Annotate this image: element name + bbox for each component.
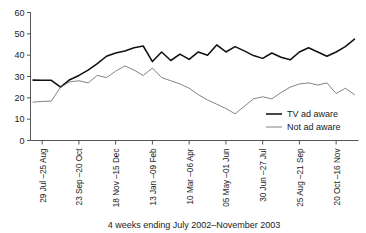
line-chart: 0102030405060 29 Jul –25 Aug23 Sep –20 O…: [0, 0, 366, 233]
x-tick-label: 18 Nov –15 Dec: [112, 149, 121, 208]
legend-label-1: Not ad aware: [287, 122, 341, 132]
y-tick-label: 50: [14, 29, 24, 39]
y-tick-label: 20: [14, 93, 24, 103]
series-line-not-ad-aware: [33, 66, 355, 114]
x-tick-label: 29 Jul –25 Aug: [39, 148, 48, 203]
series-line-tv-ad-aware: [33, 39, 355, 87]
y-tick-marks: [27, 13, 31, 141]
x-tick-label: 25 Aug –21 Sep: [296, 148, 305, 207]
y-tick-label: 60: [14, 8, 24, 18]
x-tick-labels: 29 Jul –25 Aug23 Sep –20 Oct18 Nov –15 D…: [39, 148, 342, 208]
x-tick-label: 23 Sep –20 Oct: [75, 148, 84, 206]
chart-container: 0102030405060 29 Jul –25 Aug23 Sep –20 O…: [0, 0, 366, 233]
y-tick-label: 30: [14, 72, 24, 82]
y-tick-labels: 0102030405060: [14, 8, 24, 146]
x-tick-label: 13 Jan –09 Feb: [149, 148, 158, 205]
y-tick-label: 40: [14, 50, 24, 60]
x-tick-label: 30 Jun –27 Jul: [259, 148, 268, 201]
legend-label-0: TV ad aware: [287, 109, 338, 119]
x-tick-label: 10 Mar –06 Apr: [186, 148, 195, 204]
x-tick-label: 05 May –01 Jun: [222, 148, 231, 207]
data-series-group: [33, 39, 355, 114]
y-tick-label: 10: [14, 114, 24, 124]
x-tick-marks: [42, 141, 336, 145]
x-axis-title: 4 weeks ending July 2002–November 2003: [108, 220, 281, 230]
y-tick-label: 0: [19, 136, 24, 146]
chart-legend: TV ad awareNot ad aware: [266, 109, 341, 132]
x-tick-label: 20 Oct –16 Nov: [333, 148, 342, 206]
